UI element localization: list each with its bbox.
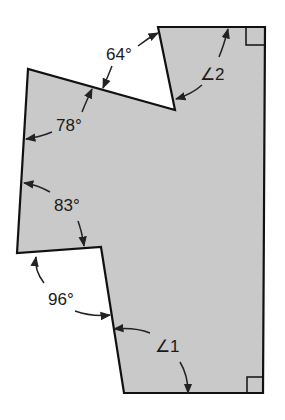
arc-96 [36,257,44,283]
angle-label-64: 64° [106,45,132,64]
angle-label-2: ∠2 [200,65,224,84]
angle-label-78: 78° [56,116,82,135]
polygon-diagram: 64° 78° 83° 96° ∠2 ∠1 [0,0,285,420]
arc-96b [75,311,110,316]
angle-label-1: ∠1 [155,337,179,356]
arc-64b [103,66,112,88]
angle-label-96: 96° [48,290,74,309]
angle-label-83: 83° [54,196,80,215]
arc-64 [138,33,158,46]
